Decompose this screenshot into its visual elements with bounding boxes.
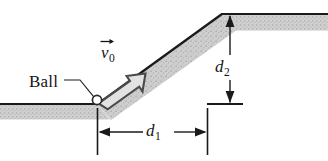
lower-ground-surface <box>0 104 110 120</box>
velocity-symbol-text: v <box>101 43 109 62</box>
velocity-symbol-wrap: v <box>101 44 109 61</box>
d2-bottom-arrowhead <box>226 91 235 103</box>
upper-ground-fill <box>222 15 328 31</box>
distance1-subscript-text: 1 <box>155 130 161 142</box>
distance2-symbol-text: d <box>215 57 224 76</box>
distance1-label: d1 <box>146 122 160 139</box>
ball-label: Ball <box>29 73 58 90</box>
velocity-label: v0 <box>101 44 114 61</box>
physics-ramp-diagram: Ball v0 d1 d2 <box>0 0 328 161</box>
distance2-label: d2 <box>215 58 229 75</box>
d1-right-arrowhead <box>195 128 207 137</box>
lower-ground-fill <box>0 105 110 120</box>
distance1-symbol-text: d <box>146 121 155 140</box>
upper-ground-surface <box>221 14 328 31</box>
ball-leader-line <box>64 80 94 97</box>
arrow-accent-svg <box>100 36 115 44</box>
vector-accent-icon <box>100 36 115 44</box>
d1-left-arrowhead <box>99 128 111 137</box>
distance2-subscript-text: 2 <box>224 66 230 78</box>
velocity-subscript-text: 0 <box>109 52 115 64</box>
ball-marker <box>92 95 101 104</box>
